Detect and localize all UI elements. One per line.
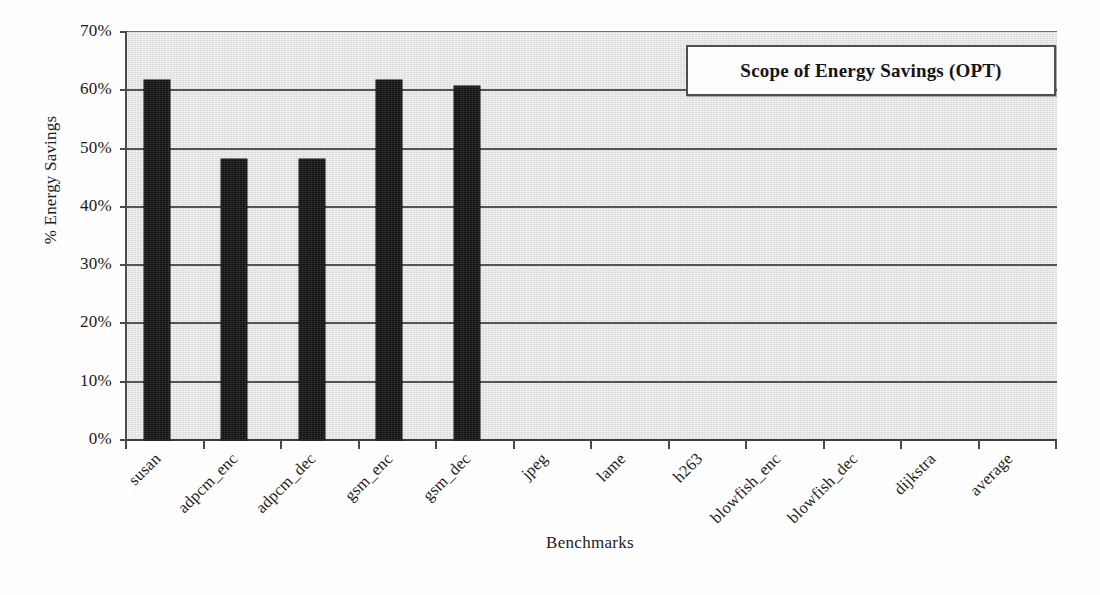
x-axis-tick-label: susan [9, 449, 165, 595]
y-axis-tick-label: 40% [80, 196, 112, 216]
y-axis-tick-label: 50% [80, 138, 112, 158]
y-axis-tick-mark [120, 206, 127, 208]
x-axis-tick-label: dijkstra [784, 449, 940, 595]
legend-box: Scope of Energy Savings (OPT) [686, 45, 1056, 96]
chart-figure: % Energy Savings 70%60%50%40%30%20%10%0%… [0, 0, 1100, 595]
x-axis-tick-label: lame [474, 449, 630, 595]
bar-adpcm_enc [221, 159, 247, 440]
y-axis-tick-label: 20% [80, 312, 112, 332]
y-axis-tick-mark [120, 89, 127, 91]
x-axis-tick-label: gsm_dec [319, 449, 475, 595]
y-axis-tick-label: 30% [80, 254, 112, 274]
x-axis-tick-labels: susanadpcm_encadpcm_decgsm_encgsm_decjpe… [125, 440, 1057, 535]
x-axis-tick-label: gsm_enc [242, 449, 398, 595]
bar-gsm_dec [454, 86, 480, 440]
y-axis-tick-mark [120, 322, 127, 324]
y-axis-tick-mark [120, 381, 127, 383]
y-axis-tick-label: 0% [89, 429, 112, 449]
bar-susan [144, 80, 170, 440]
y-axis-tick-labels: 70%60%50%40%30%20%10%0% [56, 31, 118, 439]
x-axis-title: Benchmarks [125, 533, 1055, 553]
y-axis-tick-label: 70% [80, 21, 112, 41]
x-axis-tick-label: adpcm_dec [164, 449, 320, 595]
bar-gsm_enc [376, 80, 402, 440]
y-axis-tick-mark [120, 264, 127, 266]
y-axis-tick-mark [120, 148, 127, 150]
x-axis-tick-label: blowfish_dec [707, 449, 863, 595]
y-axis-tick-label: 60% [80, 79, 112, 99]
x-axis-tick-label: adpcm_enc [87, 449, 243, 595]
x-axis-tick-label: h263 [552, 449, 708, 595]
bar-adpcm_dec [299, 159, 325, 440]
x-axis-tick-label: jpeg [397, 449, 553, 595]
x-axis-tick-label: blowfish_enc [629, 449, 785, 595]
legend-entry-label: Scope of Energy Savings (OPT) [740, 60, 1001, 82]
y-axis-tick-mark [120, 31, 127, 33]
y-axis-tick-label: 10% [80, 371, 112, 391]
x-axis-tick-label: average [862, 449, 1018, 595]
